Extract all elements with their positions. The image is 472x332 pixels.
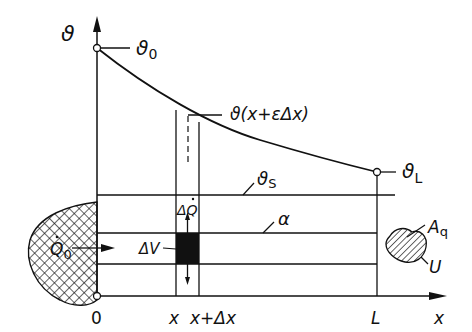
alpha-label: α — [278, 208, 290, 229]
y-axis-label: ϑ — [61, 21, 75, 46]
x-axis-arrow-icon — [429, 292, 447, 300]
fin-diagram: ϑ ϑ0 ϑ(x+εΔx) ϑL ϑS α ΔV ΔQ Q0 — [0, 0, 472, 332]
u-label: U — [429, 257, 442, 277]
theta-0-point — [94, 45, 101, 52]
volume-element — [176, 233, 199, 264]
theta-L-point — [374, 169, 381, 176]
heat-in-arrow-icon — [101, 244, 115, 252]
x-tick-x-plus-dx: x+Δx — [189, 308, 237, 328]
x-tick-L: L — [371, 308, 380, 328]
heat-loss-down-arrow-icon — [185, 277, 190, 285]
x-tick-0: 0 — [91, 308, 102, 328]
delta-v-label: ΔV — [138, 240, 161, 258]
delta-q-dot — [192, 198, 194, 200]
theta-0-label: ϑ0 — [136, 36, 157, 62]
x-axis — [97, 292, 447, 300]
y-axis-arrow-icon — [93, 16, 101, 32]
theta-s-label: ϑS — [257, 168, 276, 191]
cross-section-shape — [386, 229, 426, 263]
theta-mid-label: ϑ(x+εΔx) — [230, 104, 309, 124]
x-axis-label: x — [433, 308, 445, 328]
x-tick-x: x — [168, 308, 180, 328]
q0-dot — [56, 236, 59, 239]
delta-q-label: ΔQ — [176, 202, 198, 218]
origin-point — [94, 293, 101, 300]
theta-L-label: ϑL — [402, 159, 422, 186]
aq-label: Aq — [427, 217, 448, 239]
